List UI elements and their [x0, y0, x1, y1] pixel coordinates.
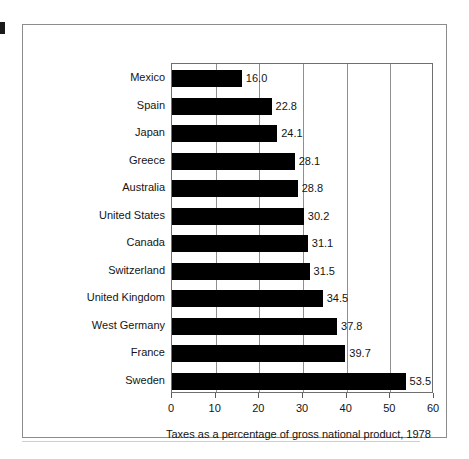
bar-value-label: 34.5	[323, 290, 348, 307]
bar	[172, 290, 323, 307]
category-axis: MexicoSpainJapanGreeceAustraliaUnited St…	[53, 63, 165, 393]
x-axis-caption: Taxes as a percentage of gross national …	[166, 428, 428, 440]
bar-row: 34.5	[172, 286, 434, 311]
tick-mark	[215, 393, 216, 398]
bar-value-label: 30.2	[304, 208, 329, 225]
tick-mark	[346, 393, 347, 398]
category-label: Spain	[137, 97, 165, 114]
bar	[172, 235, 308, 252]
category-label: Japan	[135, 124, 165, 141]
tick-mark	[171, 393, 172, 398]
bar-value-label: 39.7	[345, 345, 370, 362]
scan-line	[22, 441, 420, 442]
bar-value-label: 22.8	[272, 98, 297, 115]
bar	[172, 98, 272, 115]
bar-row: 37.8	[172, 314, 434, 339]
bar-value-label: 37.8	[337, 318, 362, 335]
plot-area: 16.022.824.128.128.830.231.131.534.537.8…	[171, 63, 433, 393]
bar-value-label: 31.1	[308, 235, 333, 252]
x-axis-tick-labels: 0102030405060	[171, 402, 434, 417]
category-label: West Germany	[92, 317, 165, 334]
bar-row: 28.8	[172, 176, 434, 201]
bar-row: 31.5	[172, 259, 434, 284]
category-label: United States	[99, 207, 165, 224]
tick-label: 10	[209, 402, 221, 414]
bar	[172, 263, 310, 280]
tick-label: 50	[383, 402, 395, 414]
tick-label: 0	[168, 402, 174, 414]
bar-value-label: 53.5	[406, 373, 431, 390]
tick-mark	[433, 393, 434, 398]
category-label: Greece	[129, 152, 165, 169]
bar	[172, 318, 337, 335]
bar-row: 53.5	[172, 369, 434, 394]
category-label: United Kingdom	[87, 289, 165, 306]
bar	[172, 208, 304, 225]
category-label: France	[131, 344, 165, 361]
figure-frame: MexicoSpainJapanGreeceAustraliaUnited St…	[22, 24, 447, 438]
bar-row: 31.1	[172, 231, 434, 256]
bar-row: 22.8	[172, 94, 434, 119]
x-axis-tick-marks	[171, 393, 434, 399]
tick-label: 40	[340, 402, 352, 414]
bar	[172, 125, 277, 142]
bar-row: 16.0	[172, 66, 434, 91]
bar-row: 30.2	[172, 204, 434, 229]
scan-artifact	[0, 22, 5, 34]
bar	[172, 345, 345, 362]
tick-label: 30	[296, 402, 308, 414]
bar-row: 39.7	[172, 341, 434, 366]
tick-label: 60	[427, 402, 439, 414]
bar	[172, 153, 295, 170]
bar-row: 28.1	[172, 149, 434, 174]
bar-value-label: 24.1	[277, 125, 302, 142]
bar	[172, 373, 406, 390]
bar-row: 24.1	[172, 121, 434, 146]
category-label: Sweden	[125, 372, 165, 389]
category-label: Canada	[126, 234, 165, 251]
category-label: Switzerland	[108, 262, 165, 279]
category-label: Australia	[122, 179, 165, 196]
bar-value-label: 31.5	[310, 263, 335, 280]
tick-label: 20	[252, 402, 264, 414]
bar-value-label: 28.1	[295, 153, 320, 170]
tick-mark	[258, 393, 259, 398]
bar-value-label: 16.0	[242, 70, 267, 87]
bar	[172, 180, 298, 197]
category-label: Mexico	[130, 69, 165, 86]
bar-value-label: 28.8	[298, 180, 323, 197]
tick-mark	[302, 393, 303, 398]
bar	[172, 70, 242, 87]
tick-mark	[389, 393, 390, 398]
